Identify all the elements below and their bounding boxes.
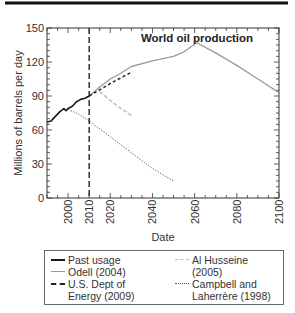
- solid-gray-line-icon: [51, 266, 65, 272]
- legend-column-2: Al Husseine (2005) Campbell and Laherrèr…: [175, 254, 271, 302]
- plot-frame: [47, 28, 279, 198]
- legend-item-doe: U.S. Dept of: [51, 278, 135, 290]
- legend-label-continued: Laherrère (1998): [175, 290, 271, 302]
- chart-title: World oil production: [141, 32, 253, 44]
- axis-ticks: [47, 28, 279, 198]
- svg-text:60: 60: [32, 124, 44, 136]
- oil-production-chart: 0306090120150 20002010202020402060208021…: [0, 0, 295, 250]
- legend-label-continued: Energy (2009): [51, 290, 135, 302]
- series-al-husseine-2005: [100, 92, 132, 116]
- y-tick-labels: 0306090120150: [26, 22, 44, 204]
- y-axis-label: Millions of barrels per day: [12, 50, 24, 176]
- legend-item-al-husseine: Al Husseine: [175, 254, 271, 266]
- legend-label: Campbell and: [192, 278, 257, 290]
- svg-text:0: 0: [38, 192, 44, 204]
- svg-text:90: 90: [32, 90, 44, 102]
- legend-item-past-usage: Past usage: [51, 254, 135, 266]
- dashed-black-line-icon: [51, 278, 65, 284]
- series-past-usage: [47, 96, 89, 122]
- legend-item-campbell: Campbell and: [175, 278, 271, 290]
- svg-text:120: 120: [26, 56, 44, 68]
- series-campbell-and-laherr-re-1998: [68, 110, 173, 181]
- svg-text:2100: 2100: [273, 200, 285, 224]
- svg-text:30: 30: [32, 158, 44, 170]
- svg-text:2040: 2040: [146, 200, 158, 224]
- svg-text:2060: 2060: [189, 200, 201, 224]
- legend: Past usage Odell (2004) U.S. Dept of Ene…: [44, 250, 284, 305]
- legend-label: Al Husseine: [192, 254, 248, 266]
- legend-label: U.S. Dept of: [68, 278, 125, 290]
- svg-text:2020: 2020: [104, 200, 116, 224]
- series-u-s-dept-of-energy-2009: [89, 72, 131, 96]
- series-lines: [47, 43, 279, 181]
- svg-text:150: 150: [26, 22, 44, 34]
- legend-label-continued: (2005): [175, 266, 271, 278]
- x-tick-labels: 2000201020202040206020802100: [62, 200, 285, 224]
- legend-column-1: Past usage Odell (2004) U.S. Dept of Ene…: [51, 254, 135, 302]
- x-axis-label: Date: [151, 231, 174, 243]
- legend-label: Odell (2004): [68, 266, 126, 278]
- svg-text:2010: 2010: [83, 200, 95, 224]
- dashed-lightgray-line-icon: [175, 254, 189, 260]
- svg-text:2000: 2000: [62, 200, 74, 224]
- legend-label: Past usage: [68, 254, 121, 266]
- svg-text:2080: 2080: [231, 200, 243, 224]
- dotted-line-icon: [175, 278, 189, 284]
- series-odell-2004: [89, 43, 279, 96]
- solid-black-line-icon: [51, 254, 65, 260]
- legend-item-odell: Odell (2004): [51, 266, 135, 278]
